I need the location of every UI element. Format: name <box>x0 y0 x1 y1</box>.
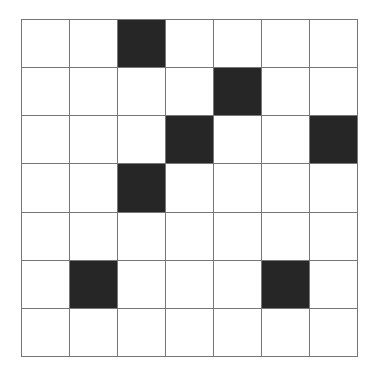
grid-cell-empty[interactable] <box>214 309 262 357</box>
grid-cell-empty[interactable] <box>262 20 310 68</box>
grid-cell-filled[interactable] <box>70 261 118 309</box>
grid-cell-empty[interactable] <box>310 261 358 309</box>
grid-cell-empty[interactable] <box>310 213 358 261</box>
grid-cell-empty[interactable] <box>70 164 118 212</box>
grid-cell-empty[interactable] <box>214 213 262 261</box>
grid-cell-filled[interactable] <box>118 164 166 212</box>
grid-cell-empty[interactable] <box>310 20 358 68</box>
grid-cell-empty[interactable] <box>166 309 214 357</box>
grid-cell-filled[interactable] <box>118 20 166 68</box>
grid-cell-filled[interactable] <box>166 116 214 164</box>
grid-cell-filled[interactable] <box>262 261 310 309</box>
grid-cell-empty[interactable] <box>118 116 166 164</box>
grid-cell-empty[interactable] <box>166 164 214 212</box>
grid-cell-filled[interactable] <box>310 116 358 164</box>
grid-cell-empty[interactable] <box>310 164 358 212</box>
grid-cell-empty[interactable] <box>214 164 262 212</box>
grid-cell-filled[interactable] <box>214 68 262 116</box>
grid-cell-empty[interactable] <box>70 309 118 357</box>
grid-cell-empty[interactable] <box>118 309 166 357</box>
grid-cell-empty[interactable] <box>70 213 118 261</box>
grid-cell-empty[interactable] <box>22 309 70 357</box>
grid-cell-empty[interactable] <box>22 164 70 212</box>
grid-cell-empty[interactable] <box>22 261 70 309</box>
grid-cell-empty[interactable] <box>214 20 262 68</box>
grid-cell-empty[interactable] <box>22 20 70 68</box>
grid-cell-empty[interactable] <box>70 20 118 68</box>
grid-cell-empty[interactable] <box>214 116 262 164</box>
grid-cell-empty[interactable] <box>166 68 214 116</box>
grid-cell-empty[interactable] <box>262 68 310 116</box>
grid-cell-empty[interactable] <box>22 213 70 261</box>
grid-cell-empty[interactable] <box>166 213 214 261</box>
grid-cell-empty[interactable] <box>118 261 166 309</box>
grid-cell-empty[interactable] <box>262 309 310 357</box>
grid-cell-empty[interactable] <box>166 261 214 309</box>
grid-cell-empty[interactable] <box>118 68 166 116</box>
grid-cell-empty[interactable] <box>22 68 70 116</box>
grid-cell-empty[interactable] <box>262 213 310 261</box>
grid-cell-empty[interactable] <box>262 164 310 212</box>
grid-cell-empty[interactable] <box>310 309 358 357</box>
grid-cell-empty[interactable] <box>262 116 310 164</box>
grid-cell-empty[interactable] <box>166 20 214 68</box>
grid-cell-empty[interactable] <box>70 68 118 116</box>
grid-cell-empty[interactable] <box>118 213 166 261</box>
grid-cell-empty[interactable] <box>310 68 358 116</box>
grid-cell-empty[interactable] <box>214 261 262 309</box>
puzzle-grid <box>21 19 358 357</box>
grid-cell-empty[interactable] <box>70 116 118 164</box>
grid-cell-empty[interactable] <box>22 116 70 164</box>
